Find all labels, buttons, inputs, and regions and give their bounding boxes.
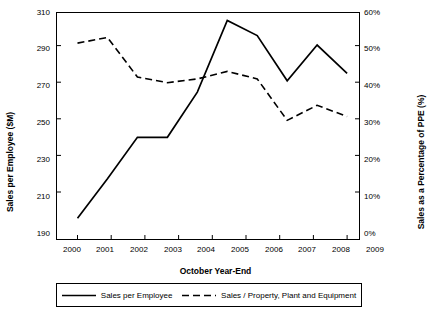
axis-ticks <box>57 46 359 239</box>
x-tick-2004: 2004 <box>190 245 222 254</box>
plot-svg <box>57 13 359 239</box>
x-tick-2007: 2007 <box>291 245 323 254</box>
y-right-tick-0: 0% <box>364 229 396 238</box>
y-left-tick-190: 190 <box>20 229 50 238</box>
legend-item-sales-over-ppe: Sales / Property, Plant and Equipment <box>182 291 356 300</box>
y-right-tick-20: 20% <box>364 155 396 164</box>
y-axis-left-title: Sales per Employee ($M) <box>5 97 15 227</box>
x-tick-2006: 2006 <box>258 245 290 254</box>
x-tick-2005: 2005 <box>224 245 256 254</box>
y-left-tick-270: 270 <box>20 81 50 90</box>
legend-label-sales-per-employee: Sales per Employee <box>101 291 173 300</box>
series-line-sales-over-ppe <box>78 37 348 120</box>
y-left-tick-250: 250 <box>20 118 50 127</box>
chart-legend: Sales per Employee Sales / Property, Pla… <box>56 283 362 307</box>
x-tick-2000: 2000 <box>56 245 88 254</box>
y-right-tick-10: 10% <box>364 192 396 201</box>
y-right-tick-30: 30% <box>364 118 396 127</box>
y-left-tick-210: 210 <box>20 192 50 201</box>
legend-solid-line-icon <box>62 291 96 300</box>
x-tick-2009: 2009 <box>359 245 391 254</box>
x-tick-2001: 2001 <box>89 245 121 254</box>
legend-label-sales-over-ppe: Sales / Property, Plant and Equipment <box>221 291 356 300</box>
chart-container: Sales per Employee ($M) Sales as a Perce… <box>0 0 431 323</box>
x-tick-2003: 2003 <box>157 245 189 254</box>
y-right-tick-40: 40% <box>364 81 396 90</box>
plot-area <box>56 12 360 240</box>
y-axis-right-title: Sales as a Percentage of PPE (%) <box>416 82 426 242</box>
x-tick-2008: 2008 <box>325 245 357 254</box>
y-right-tick-50: 50% <box>364 44 396 53</box>
x-tick-2002: 2002 <box>123 245 155 254</box>
legend-dashed-line-icon <box>182 291 216 300</box>
legend-item-sales-per-employee: Sales per Employee <box>62 291 173 300</box>
y-right-tick-60: 60% <box>364 8 396 17</box>
y-left-tick-310: 310 <box>20 8 50 17</box>
y-left-tick-290: 290 <box>20 44 50 53</box>
x-axis-title: October Year-End <box>0 266 431 276</box>
y-left-tick-230: 230 <box>20 155 50 164</box>
